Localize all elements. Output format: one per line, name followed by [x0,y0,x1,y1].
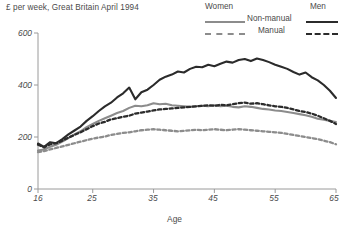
x-tick-25: 25 [80,193,104,203]
y-tick-200: 200 [6,132,32,142]
x-tick-55: 55 [262,193,286,203]
x-tick-35: 35 [141,193,165,203]
x-tick-45: 45 [201,193,225,203]
x-tick-16: 16 [26,193,50,203]
series-line [38,129,336,152]
y-tick-400: 400 [6,80,32,90]
series-line [38,103,336,150]
y-tick-600: 600 [6,28,32,38]
plot-area [0,0,349,234]
x-axis-title: Age [0,214,349,224]
chart-figure: £ per week, Great Britain April 1994 Wom… [0,0,349,234]
x-tick-65: 65 [322,193,346,203]
